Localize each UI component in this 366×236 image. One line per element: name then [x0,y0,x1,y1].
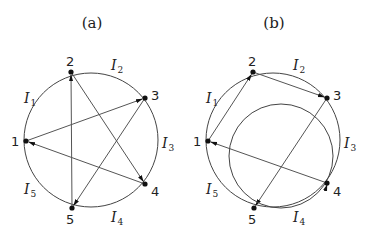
panel-title: (b) [263,14,284,32]
node-1 [205,138,210,143]
node-label: 5 [66,212,74,227]
arc-label-I2: I2 [110,57,123,75]
diagram-canvas: (a)12345I1I2I3I4I5 (b)12345I1I2I3I4I5 [0,0,366,236]
node-4 [324,180,329,185]
edge-5-to-2 [71,75,72,208]
node-3 [324,95,329,100]
node-5 [251,205,256,210]
arc-label-I1: I1 [205,90,218,108]
node-label: 1 [11,134,19,149]
arc-label-I5: I5 [205,181,219,199]
outer-circle [206,73,340,207]
arc-label-I3: I3 [343,135,357,153]
curved-edge-5-to-4 [325,185,327,191]
edge-3-to-5 [74,98,145,206]
edge-1-to-3 [26,99,142,141]
edge-2-to-4 [71,72,143,181]
arc-label-I4: I4 [292,209,306,227]
inner-circle [229,104,333,208]
node-4 [142,181,147,186]
edge-4-to-1 [29,142,145,184]
node-label: 3 [333,88,341,103]
node-label: 1 [193,134,201,149]
node-label: 4 [333,184,341,199]
edge-2-to-3 [253,72,324,97]
node-label: 4 [151,184,159,199]
panel-title: (a) [82,14,103,32]
node-5 [69,205,74,210]
node-label: 2 [248,54,256,69]
node-3 [142,95,147,100]
edge-3-to-5 [256,98,327,206]
node-2 [250,69,255,74]
outer-circle [24,73,158,207]
arc-label-I1: I1 [23,90,36,108]
node-label: 3 [151,88,159,103]
arc-label-I5: I5 [23,181,37,199]
arc-label-I2: I2 [292,57,305,75]
node-1 [23,138,28,143]
panel-a: (a)12345I1I2I3I4I5 [11,14,175,227]
node-label: 2 [66,54,74,69]
arc-label-I3: I3 [161,135,175,153]
panel-b: (b)12345I1I2I3I4I5 [193,14,357,227]
arc-label-I4: I4 [110,209,124,227]
node-2 [68,69,73,74]
node-label: 5 [248,212,256,227]
edge-4-to-1 [211,142,327,183]
